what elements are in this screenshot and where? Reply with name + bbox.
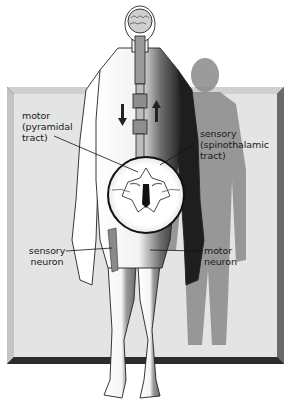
label-line: neuron [26,256,68,267]
spinal-cord-cross-section [108,157,184,233]
anatomy-diagram: motor (pyramidal tract) sensory (spinoth… [0,0,289,403]
label-motor-neuron: motor neuron [204,245,237,267]
label-line: motor [22,110,72,121]
label-line: sensory [26,245,68,256]
label-line: tract) [22,132,72,143]
label-line: neuron [204,256,237,267]
label-motor-pyramidal-tract: motor (pyramidal tract) [22,110,72,143]
brain-icon [128,9,152,33]
label-line: (spinothalamic [200,139,269,150]
diagram-canvas [0,0,289,403]
label-line: sensory [200,128,269,139]
label-sensory-spinothalamic-tract: sensory (spinothalamic tract) [200,128,269,161]
label-line: tract) [200,150,269,161]
label-line: motor [204,245,237,256]
label-sensory-neuron: sensory neuron [26,245,68,267]
label-line: (pyramidal [22,121,72,132]
